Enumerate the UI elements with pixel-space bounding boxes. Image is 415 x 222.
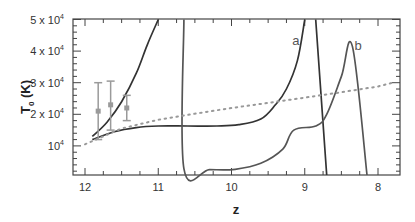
error-bar-point	[107, 81, 115, 130]
y-tick-label: 5 x 104	[30, 13, 64, 26]
curve-label-b: b	[355, 38, 362, 53]
series-b	[182, 20, 367, 181]
series-steep-early	[92, 20, 158, 137]
series-a-descent	[316, 20, 327, 176]
x-tick-label: 8	[375, 181, 381, 193]
y-tick-label: 4 x 104	[30, 44, 64, 57]
y-axis-title-main: T	[18, 106, 33, 114]
y-tick-label: 3 x 104	[30, 76, 64, 89]
x-tick-label: 9	[302, 181, 308, 193]
series-dotted-reference	[85, 83, 393, 145]
x-tick-label: 12	[79, 181, 91, 193]
y-tick-label: 104	[48, 139, 64, 152]
data-series	[85, 20, 393, 181]
x-tick-label: 10	[225, 181, 237, 193]
x-tick-label: 11	[153, 181, 164, 193]
y-tick-label: 2 x 104	[30, 107, 64, 120]
y-axis-title-unit: (K)	[18, 80, 33, 102]
axis-tick-labels: 121110981042 x 1043 x 1044 x 1045 x 104	[30, 13, 381, 194]
series-a	[92, 20, 304, 140]
chart: 121110981042 x 1043 x 1044 x 1045 x 104 …	[0, 0, 415, 222]
error-bar-point	[94, 83, 102, 140]
x-axis-title: z	[233, 202, 240, 217]
curve-label-a: a	[292, 33, 300, 48]
